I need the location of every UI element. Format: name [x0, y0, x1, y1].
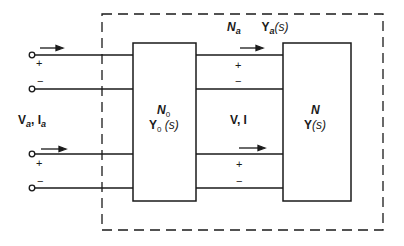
block-n-admittance: Y(s)	[304, 119, 326, 131]
minus-sign-port1: −	[37, 76, 43, 87]
plus-sign-internal1: +	[235, 60, 241, 71]
minus-sign-internal1: −	[235, 76, 241, 87]
plus-sign-port2: +	[36, 158, 42, 169]
current-arrow-icons	[40, 46, 265, 152]
block-n-name: N	[311, 104, 320, 116]
external-port-label: Va, Ia	[18, 114, 46, 129]
external-port-wires	[35, 55, 133, 188]
outer-network-label: Na Ya(s)	[227, 21, 288, 36]
internal-port-label: V, I	[230, 114, 247, 126]
circuit-diagram	[0, 0, 404, 246]
plus-sign-port1: +	[36, 58, 42, 69]
minus-sign-internal2: −	[236, 176, 242, 187]
plus-sign-internal2: +	[236, 159, 242, 170]
block-n0-admittance: Y0 (s)	[149, 119, 179, 134]
minus-sign-port2: −	[37, 176, 43, 187]
